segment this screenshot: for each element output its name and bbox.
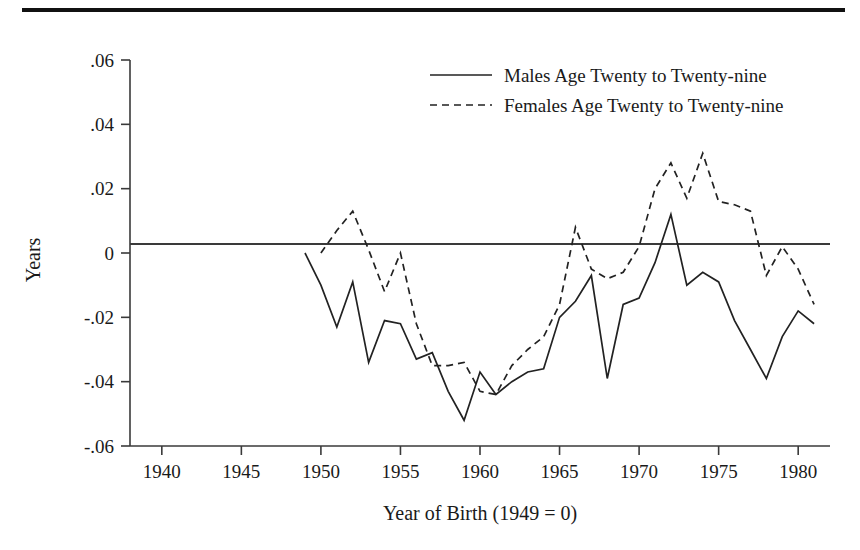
chart-figure: Years -.06-.04-.020.02.04.06 19401945195… bbox=[0, 20, 860, 550]
x-tick-label: 1950 bbox=[302, 461, 340, 482]
x-tick-label: 1960 bbox=[461, 461, 499, 482]
x-axis-title: Year of Birth (1949 = 0) bbox=[383, 502, 577, 525]
x-tick-label: 1965 bbox=[541, 461, 579, 482]
y-tick-label: .04 bbox=[90, 114, 114, 135]
top-rule-divider bbox=[22, 8, 845, 12]
x-tick-label: 1970 bbox=[620, 461, 658, 482]
figure-page: Years -.06-.04-.020.02.04.06 19401945195… bbox=[0, 0, 860, 550]
x-tick-label: 1980 bbox=[779, 461, 817, 482]
chart-legend: Males Age Twenty to Twenty-nineFemales A… bbox=[430, 65, 783, 116]
x-axis-ticks: 194019451950195519601965197019751980 bbox=[143, 446, 817, 482]
y-axis-ticks: -.06-.04-.020.02.04.06 bbox=[84, 50, 130, 457]
data-series-layer bbox=[305, 153, 814, 420]
series-line-males bbox=[305, 214, 814, 420]
y-tick-label: -.02 bbox=[84, 307, 114, 328]
legend-label: Males Age Twenty to Twenty-nine bbox=[504, 65, 767, 86]
series-line-females bbox=[321, 153, 814, 394]
x-tick-label: 1955 bbox=[381, 461, 419, 482]
y-tick-label: .06 bbox=[90, 50, 114, 71]
x-tick-label: 1945 bbox=[222, 461, 260, 482]
y-tick-label: 0 bbox=[105, 243, 115, 264]
line-chart: Years -.06-.04-.020.02.04.06 19401945195… bbox=[0, 20, 860, 550]
y-tick-label: -.04 bbox=[84, 371, 115, 392]
legend-label: Females Age Twenty to Twenty-nine bbox=[504, 95, 783, 116]
y-axis-title: Years bbox=[22, 237, 44, 282]
y-tick-label: .02 bbox=[90, 178, 114, 199]
x-tick-label: 1975 bbox=[700, 461, 738, 482]
y-tick-label: -.06 bbox=[84, 436, 114, 457]
x-tick-label: 1940 bbox=[143, 461, 181, 482]
